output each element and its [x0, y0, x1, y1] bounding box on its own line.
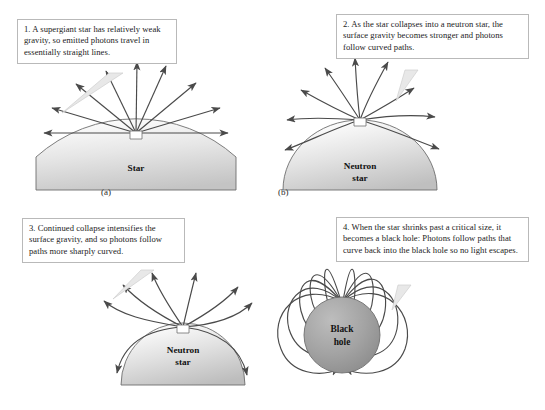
black-hole-label-line1: Black — [331, 324, 355, 334]
figure-container: Star (a) — [0, 0, 545, 410]
emission-point — [130, 131, 142, 139]
panel-label-a: (a) — [101, 187, 111, 197]
neutron-star-label-line2: star — [352, 173, 367, 183]
callout-box-c: 3. Continued collapse intensifies the su… — [22, 218, 185, 263]
callout-box-a: 1. A supergiant star has relatively weak… — [17, 19, 177, 64]
neutron-star-label-line1: Neutron — [167, 345, 200, 355]
star-label: Star — [128, 163, 145, 173]
panel-label-b: (b) — [278, 187, 289, 197]
neutron-star-label-line1: Neutron — [344, 161, 377, 171]
emission-point — [354, 118, 366, 126]
callout-box-b: 2. As the star collapses into a neutron … — [336, 14, 529, 59]
black-hole-body — [304, 297, 380, 373]
callout-box-d: 4. When the star shrinks past a critical… — [336, 217, 529, 262]
emission-point — [177, 325, 189, 333]
black-hole-label-line2: hole — [334, 337, 351, 347]
neutron-star-label-line2: star — [175, 357, 190, 367]
photon-rays-straight — [44, 62, 228, 133]
